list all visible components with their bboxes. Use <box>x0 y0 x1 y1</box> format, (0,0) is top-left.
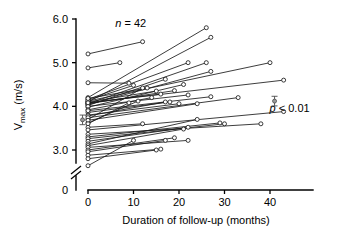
data-point-followup <box>141 122 145 126</box>
x-axis-title: Duration of follow-up (months) <box>122 214 269 226</box>
data-point-followup <box>141 86 145 90</box>
series-line <box>88 123 220 137</box>
y-axis-title: Vmax (m/s) <box>12 80 27 131</box>
data-point-followup <box>132 83 136 87</box>
data-point-baseline <box>86 66 90 70</box>
svg-text:Vmax (m/s): Vmax (m/s) <box>12 80 27 131</box>
data-point-baseline <box>86 157 90 161</box>
data-point-followup <box>145 86 149 90</box>
x-tick-label-30: 30 <box>218 196 230 208</box>
series-lines-group <box>88 28 284 166</box>
data-point-followup <box>195 102 199 106</box>
svg-text:p < 0.01: p < 0.01 <box>269 102 310 114</box>
data-point-baseline <box>86 52 90 56</box>
data-point-followup <box>186 125 190 129</box>
data-point-followup <box>209 95 213 99</box>
x-tick-label-0: 0 <box>85 196 91 208</box>
y-axis-title-units: (m/s) <box>12 80 24 108</box>
data-point-followup <box>136 99 140 103</box>
y-axis-title-subscript: max <box>18 108 27 123</box>
p-value-text: < 0.01 <box>276 102 310 114</box>
data-point-followup <box>223 122 227 126</box>
svg-text:n = 42: n = 42 <box>115 17 146 29</box>
data-point-followup <box>154 148 158 152</box>
data-point-followup <box>209 35 213 39</box>
data-point-followup <box>282 78 286 82</box>
data-point-followup <box>172 89 176 93</box>
p-value-symbol: p <box>269 102 276 114</box>
data-point-followup <box>163 138 167 142</box>
data-point-followup <box>186 61 190 65</box>
data-point-followup <box>204 26 208 30</box>
data-point-followup <box>186 93 190 97</box>
data-point-baseline <box>86 96 90 100</box>
series-line <box>88 42 143 54</box>
y-tick-label-5.0: 5.0 <box>53 57 68 69</box>
data-point-followup <box>127 81 131 85</box>
data-point-baseline <box>86 81 90 85</box>
data-point-followup <box>150 96 154 100</box>
y-tick-label-3.0: 3.0 <box>53 144 68 156</box>
data-point-followup <box>172 136 176 140</box>
x-tick-label-10: 10 <box>127 196 139 208</box>
x-axis-tick-labels: 010203040 <box>85 196 276 208</box>
data-point-followup <box>177 102 181 106</box>
data-point-baseline <box>86 164 90 168</box>
data-point-followup <box>118 61 122 65</box>
data-point-followup <box>259 122 263 126</box>
annotation-sample-size: n = 42 <box>115 17 146 29</box>
series-line <box>88 63 120 68</box>
data-point-followup <box>218 121 222 125</box>
y-axis-group: 3.04.05.06.0 0 <box>53 13 81 196</box>
figure-container: 3.04.05.06.0 0 010203040 Duration of fol… <box>0 0 340 246</box>
data-point-followup <box>127 101 131 105</box>
x-tick-label-40: 40 <box>264 196 276 208</box>
data-point-followup <box>159 92 163 96</box>
data-point-followup <box>141 40 145 44</box>
sample-size-value: = 42 <box>121 17 146 29</box>
data-point-followup <box>204 61 208 65</box>
data-point-followup <box>195 117 199 121</box>
x-tick-label-20: 20 <box>173 196 185 208</box>
annotation-p-value: p < 0.01 <box>269 102 310 114</box>
paired-line-chart: 3.04.05.06.0 0 010203040 Duration of fol… <box>0 0 340 246</box>
y-tick-label-4.0: 4.0 <box>53 100 68 112</box>
data-point-followup <box>182 83 186 87</box>
data-point-followup <box>182 127 186 131</box>
data-point-baseline <box>86 128 90 132</box>
data-point-followup <box>159 147 163 151</box>
data-point-followup <box>132 138 136 142</box>
series-line <box>88 140 188 147</box>
data-point-followup <box>186 138 190 142</box>
y-axis-tick-labels: 3.04.05.06.0 <box>53 13 68 156</box>
data-point-followup <box>209 69 213 73</box>
data-point-followup <box>163 77 167 81</box>
y-tick-label-6.0: 6.0 <box>53 13 68 25</box>
data-point-followup <box>236 96 240 100</box>
data-point-baseline <box>86 101 90 105</box>
baseline-mean-marker <box>80 115 86 125</box>
data-point-followup <box>168 100 172 104</box>
y-axis-origin-label: 0 <box>62 184 68 196</box>
x-axis-group: 010203040 <box>85 190 313 208</box>
data-point-followup <box>154 89 158 93</box>
data-point-followup <box>163 100 167 104</box>
data-point-followup <box>268 61 272 65</box>
plot-data-layer <box>86 26 286 168</box>
data-point-baseline <box>86 109 90 113</box>
